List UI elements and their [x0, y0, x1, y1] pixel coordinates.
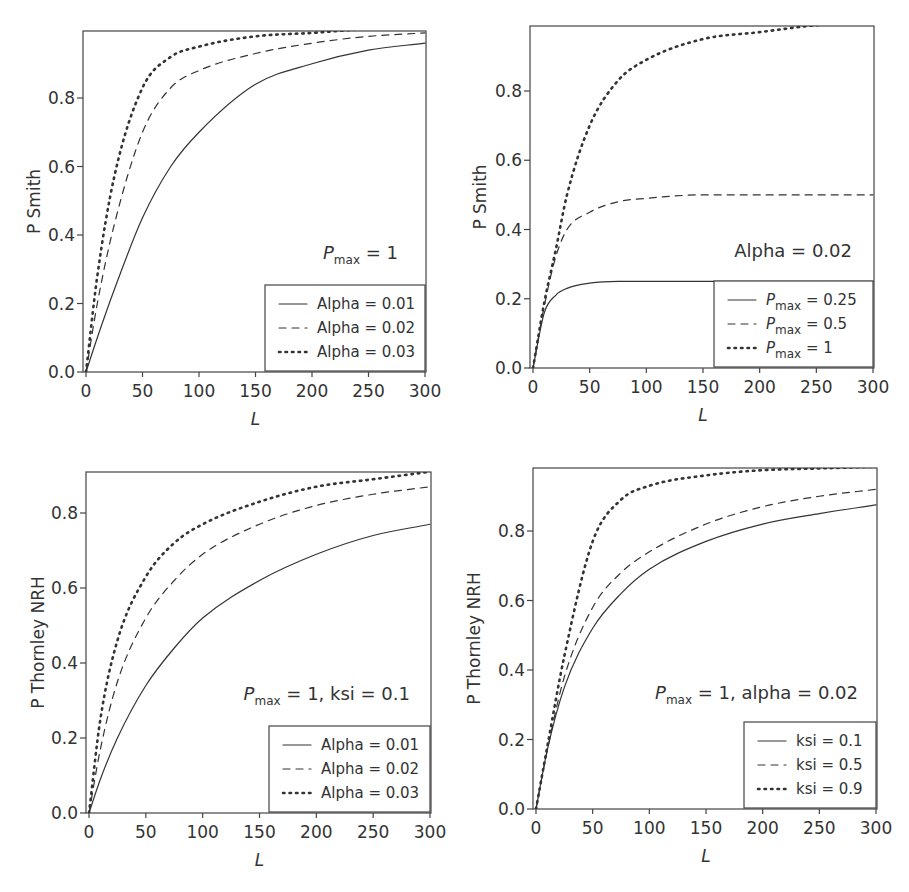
x-tick-label: 100	[633, 818, 665, 838]
y-tick-label: 0.2	[495, 289, 522, 309]
y-tick-label: 0.6	[498, 591, 525, 611]
y-tick-label: 0.8	[48, 88, 75, 108]
y-tick-label: 0.6	[48, 157, 75, 177]
x-tick-label: 150	[239, 381, 271, 401]
x-tick-label: 300	[409, 381, 441, 401]
x-tick-label: 100	[630, 377, 662, 397]
legend: ksi = 0.1ksi = 0.5ksi = 0.9	[744, 722, 876, 808]
y-tick-label: 0.8	[495, 81, 522, 101]
x-tick-label: 300	[860, 818, 892, 838]
legend-label-3: Alpha = 0.03	[317, 343, 415, 361]
y-axis-label: P Thornley NRH	[464, 572, 484, 705]
y-axis-label: P Smith	[470, 164, 490, 229]
y-axis-label: P Smith	[24, 169, 44, 234]
legend-label-1: Alpha = 0.01	[317, 295, 415, 313]
chart-panel-top-right: 0501001502002503000.00.20.40.60.8LP Smit…	[470, 22, 889, 425]
x-tick-label: 100	[186, 822, 218, 842]
x-tick-label: 150	[243, 822, 275, 842]
y-tick-label: 0.4	[495, 220, 522, 240]
x-tick-label: 250	[352, 381, 384, 401]
x-tick-label: 0	[528, 377, 539, 397]
panel-annotation: Alpha = 0.02	[734, 240, 852, 261]
figure: 0501001502002503000.00.20.40.60.8LP Smit…	[0, 0, 909, 892]
x-tick-label: 0	[531, 818, 542, 838]
chart-panel-top-left: 0501001502002503000.00.20.40.60.8LP Smit…	[24, 30, 441, 430]
y-tick-label: 0.6	[495, 150, 522, 170]
y-tick-label: 0.2	[48, 294, 75, 314]
chart-panel-bottom-right: 0501001502002503000.00.20.40.60.8LP Thor…	[464, 467, 892, 866]
y-tick-label: 0.8	[51, 503, 78, 523]
x-tick-label: 300	[857, 377, 889, 397]
legend-label-2: Alpha = 0.02	[321, 760, 419, 778]
x-axis-label: L	[251, 409, 260, 429]
y-tick-label: 0.0	[498, 799, 525, 819]
x-tick-label: 150	[690, 818, 722, 838]
panel-annotation: Pmax = 1, ksi = 0.1	[244, 683, 410, 708]
panel-annotation: Pmax = 1	[323, 242, 398, 267]
x-tick-label: 250	[357, 822, 389, 842]
x-tick-label: 0	[84, 822, 95, 842]
legend-label-3: Alpha = 0.03	[321, 784, 419, 802]
legend: Alpha = 0.01Alpha = 0.02Alpha = 0.03	[269, 726, 430, 812]
legend-label-2: Alpha = 0.02	[317, 319, 415, 337]
y-tick-label: 0.4	[498, 660, 525, 680]
x-tick-label: 100	[183, 381, 215, 401]
y-tick-label: 0.4	[51, 653, 78, 673]
x-tick-label: 50	[135, 822, 157, 842]
x-tick-label: 200	[296, 381, 328, 401]
legend-label-3: ksi = 0.9	[796, 780, 863, 798]
panel-annotation: Pmax = 1, alpha = 0.02	[655, 682, 858, 707]
y-tick-label: 0.4	[48, 225, 75, 245]
x-tick-label: 50	[582, 818, 604, 838]
legend-label-2: ksi = 0.5	[796, 756, 863, 774]
chart-panel-bottom-left: 0501001502002503000.00.20.40.60.8LP Thor…	[28, 472, 446, 870]
x-tick-label: 200	[300, 822, 332, 842]
x-tick-label: 50	[132, 381, 154, 401]
x-tick-label: 300	[414, 822, 446, 842]
legend-label-1: ksi = 0.1	[796, 732, 863, 750]
y-axis-label: P Thornley NRH	[28, 576, 48, 709]
x-axis-label: L	[701, 846, 710, 866]
x-tick-label: 250	[800, 377, 832, 397]
legend: Pmax = 0.25Pmax = 0.5Pmax = 1	[714, 281, 873, 367]
legend: Alpha = 0.01Alpha = 0.02Alpha = 0.03	[265, 285, 425, 371]
legend-label-1: Alpha = 0.01	[321, 736, 419, 754]
x-axis-label: L	[698, 405, 707, 425]
x-tick-label: 50	[579, 377, 601, 397]
x-tick-label: 200	[743, 377, 775, 397]
y-tick-label: 0.0	[48, 362, 75, 382]
x-tick-label: 150	[687, 377, 719, 397]
x-tick-label: 200	[746, 818, 778, 838]
x-tick-label: 0	[81, 381, 92, 401]
y-tick-label: 0.0	[495, 358, 522, 378]
x-axis-label: L	[255, 850, 264, 870]
y-tick-label: 0.2	[498, 730, 525, 750]
y-tick-label: 0.0	[51, 803, 78, 823]
y-tick-label: 0.6	[51, 578, 78, 598]
y-tick-label: 0.8	[498, 521, 525, 541]
x-tick-label: 250	[803, 818, 835, 838]
y-tick-label: 0.2	[51, 728, 78, 748]
